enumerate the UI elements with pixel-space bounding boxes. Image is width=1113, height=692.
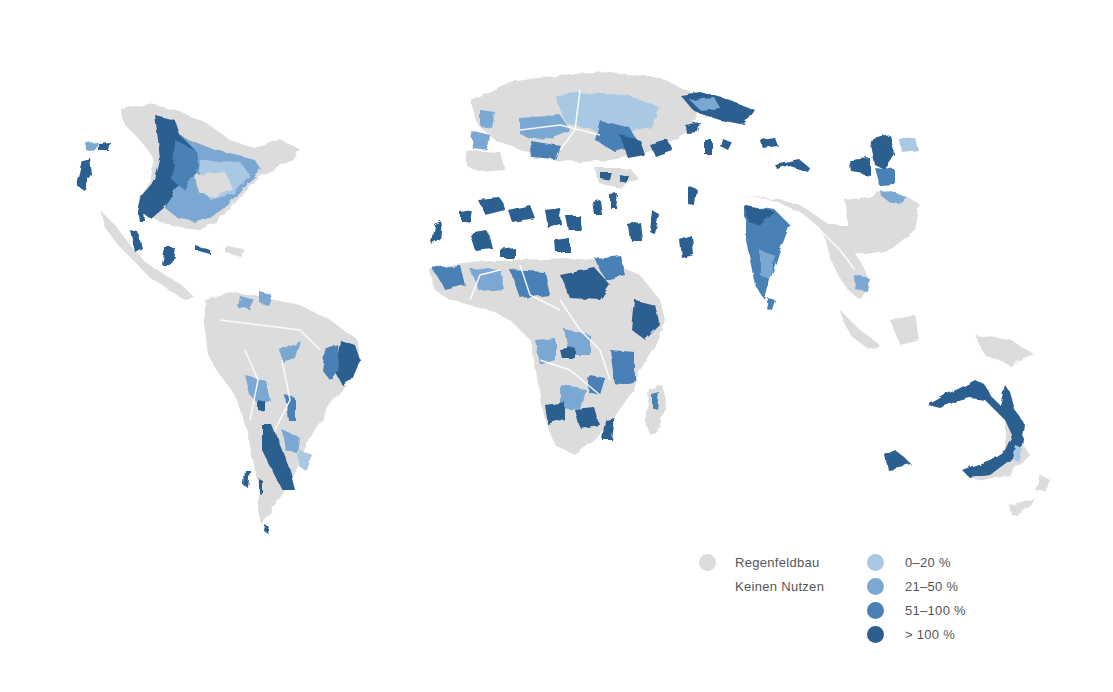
central-asia-patches (650, 122, 810, 258)
australia-nz (885, 380, 1050, 515)
world-map (0, 0, 1113, 692)
north-africa-patches (432, 194, 642, 258)
africa (428, 255, 666, 455)
europe-russia (465, 72, 755, 188)
north-america (76, 104, 300, 300)
south-east-asia (740, 135, 1035, 365)
